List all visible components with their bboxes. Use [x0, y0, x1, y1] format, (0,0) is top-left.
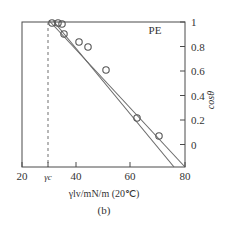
y-tick-label-04: 0.4	[191, 90, 205, 102]
x-axis-title: γlv/mN/m (20℃)	[68, 188, 140, 200]
y-tick-label-08: 0.8	[191, 41, 205, 53]
plot-area-border	[22, 22, 185, 167]
y-tick-label-06: 0.6	[191, 65, 205, 77]
chart-svg: 20 γc 40 60 80 1 0.8 0.6 0.4 0.2 0 cosθ …	[0, 0, 226, 225]
y-tick-label-02: 0.2	[191, 114, 205, 126]
figure-caption: (b)	[98, 204, 111, 217]
zisman-plot-figure: 20 γc 40 60 80 1 0.8 0.6 0.4 0.2 0 cosθ …	[0, 0, 226, 225]
x-tick-label-gamma-c: γc	[44, 172, 52, 182]
sample-annotation-label: PE	[149, 24, 162, 36]
y-tick-label-1: 1	[191, 16, 197, 28]
x-tick-label-60: 60	[125, 170, 137, 182]
x-tick-label-40: 40	[71, 170, 83, 182]
plot-frame	[22, 22, 185, 167]
x-tick-label-20: 20	[17, 170, 29, 182]
y-axis-title: cosθ	[205, 91, 216, 109]
x-tick-label-80: 80	[180, 170, 192, 182]
y-tick-label-0: 0	[191, 139, 197, 151]
